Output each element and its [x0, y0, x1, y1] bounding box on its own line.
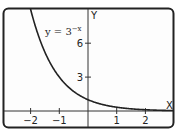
x-axis-label: X — [166, 100, 173, 111]
x-tick-label: −1 — [52, 115, 67, 126]
x-tick-label: −2 — [23, 115, 38, 126]
y-tick-label: 3 — [77, 72, 83, 83]
x-tick-label: 2 — [142, 115, 148, 126]
y-tick-label: 6 — [77, 38, 83, 49]
y-axis-label: Y — [90, 10, 98, 21]
x-tick-label: 1 — [114, 115, 120, 126]
graph: −2−112 36 X Y y = 3−x — [0, 0, 176, 136]
